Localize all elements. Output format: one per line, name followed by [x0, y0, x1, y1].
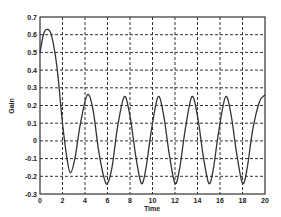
y-tick-label: 0.3 — [27, 84, 37, 91]
y-axis-label: Gain — [8, 98, 15, 114]
x-axis-label: Time — [144, 205, 160, 212]
y-tick-label: 0 — [33, 137, 37, 144]
x-tick-label: 0 — [38, 197, 42, 204]
y-tick-label: -0.3 — [25, 191, 37, 198]
y-tick-label: 0.1 — [27, 120, 37, 127]
x-tick-label: 20 — [261, 197, 269, 204]
chart-background — [0, 0, 281, 217]
x-tick-label: 18 — [239, 197, 247, 204]
y-tick-label: -0.1 — [25, 155, 37, 162]
x-tick-label: 10 — [149, 197, 157, 204]
x-tick-label: 8 — [128, 197, 132, 204]
y-tick-label: -0.2 — [25, 173, 37, 180]
line-chart: 0.70.60.50.40.30.20.10-0.1-0.2-0.3 02468… — [0, 0, 281, 217]
x-tick-label: 16 — [216, 197, 224, 204]
y-tick-label: 0.4 — [27, 67, 37, 74]
x-tick-label: 6 — [106, 197, 110, 204]
x-tick-label: 4 — [83, 197, 87, 204]
y-tick-label: 0.5 — [27, 49, 37, 56]
x-tick-label: 12 — [171, 197, 179, 204]
x-tick-label: 14 — [194, 197, 202, 204]
y-tick-label: 0.7 — [27, 14, 37, 21]
y-tick-label: 0.2 — [27, 102, 37, 109]
y-tick-label: 0.6 — [27, 31, 37, 38]
x-tick-label: 2 — [61, 197, 65, 204]
